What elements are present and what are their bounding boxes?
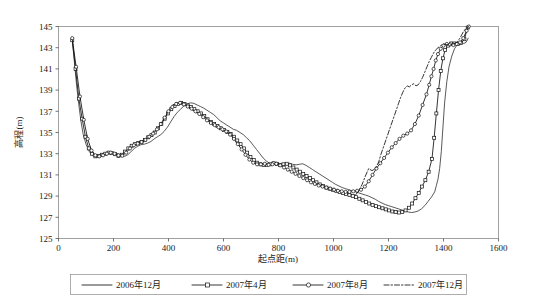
legend-label: 2007年12月 — [418, 279, 463, 290]
series-marker — [458, 41, 461, 44]
x-tick-label: 1000 — [325, 243, 344, 253]
series-marker — [229, 133, 232, 136]
series-marker — [398, 137, 401, 140]
series-marker — [313, 182, 316, 185]
series-marker — [282, 163, 285, 166]
x-tick-label: 0 — [56, 243, 61, 253]
series-marker — [101, 154, 104, 157]
series-marker — [295, 168, 298, 171]
series-marker — [428, 83, 431, 86]
series-marker — [117, 154, 120, 157]
series-marker — [367, 180, 370, 183]
series-marker — [361, 199, 364, 202]
series-marker — [424, 179, 427, 182]
series-marker — [384, 208, 387, 211]
series-marker — [383, 156, 386, 159]
series-marker — [306, 179, 309, 182]
series-marker — [391, 210, 394, 213]
series-marker — [305, 174, 308, 177]
series-marker — [325, 186, 328, 189]
series-marker — [290, 170, 293, 173]
series-marker — [379, 162, 382, 165]
legend-marker-circle — [306, 283, 310, 287]
series-marker — [263, 162, 266, 165]
series-marker — [298, 170, 301, 173]
y-tick-label: 125 — [39, 234, 53, 244]
series-marker — [194, 110, 197, 113]
series-marker — [152, 132, 155, 135]
series-marker — [71, 37, 74, 40]
series-marker — [411, 202, 414, 205]
series-marker — [375, 167, 378, 170]
series-marker — [317, 184, 320, 187]
y-tick-label: 133 — [39, 149, 53, 159]
y-tick-label: 131 — [39, 170, 53, 180]
series-marker — [225, 130, 228, 133]
series-marker — [407, 206, 410, 209]
series-marker — [421, 185, 424, 188]
series-marker — [329, 187, 332, 190]
series-marker — [417, 114, 420, 117]
series-marker — [437, 89, 440, 92]
series-marker — [167, 110, 170, 113]
x-tick-label: 1400 — [435, 243, 454, 253]
series-marker — [336, 189, 339, 192]
series-marker — [186, 105, 189, 108]
series-marker — [98, 155, 101, 158]
series-marker — [178, 101, 181, 104]
series-marker — [371, 173, 374, 176]
series-marker — [351, 195, 354, 198]
series-marker — [94, 154, 97, 157]
series-marker — [439, 70, 442, 73]
series-marker — [217, 126, 220, 129]
series-marker — [109, 151, 112, 154]
series-marker — [414, 197, 417, 200]
series-marker — [205, 119, 208, 122]
series-marker — [430, 75, 433, 78]
x-tick-label: 200 — [107, 243, 121, 253]
x-tick-label: 600 — [217, 243, 231, 253]
series-marker — [232, 137, 235, 140]
elevation-profile-chart: 125127129131133135137139141143145 020040… — [0, 0, 533, 308]
series-marker — [436, 52, 439, 55]
series-marker — [140, 140, 143, 143]
series-marker — [148, 135, 151, 138]
series-marker — [190, 107, 193, 110]
series-marker — [332, 188, 335, 191]
series-marker — [198, 112, 201, 115]
series-marker — [402, 134, 405, 137]
series-marker — [286, 168, 289, 171]
series-marker — [136, 142, 139, 145]
y-axis-title: 高程(m) — [13, 117, 24, 148]
series-marker — [132, 144, 135, 147]
x-tick-label: 800 — [272, 243, 286, 253]
series-marker — [213, 123, 216, 126]
series-marker — [390, 146, 393, 149]
series-marker — [294, 172, 297, 175]
series-marker — [388, 209, 391, 212]
series-marker — [171, 105, 174, 108]
series-marker — [432, 67, 435, 70]
series-marker — [175, 102, 178, 105]
y-tick-label: 143 — [39, 43, 53, 53]
series-marker — [462, 37, 465, 40]
series-marker — [125, 151, 128, 154]
legend-marker-square — [206, 283, 210, 287]
legend-label: 2007年8月 — [327, 279, 368, 290]
series-marker — [444, 48, 447, 51]
series-marker — [221, 128, 224, 131]
series-marker — [433, 136, 436, 139]
series-marker — [355, 196, 358, 199]
series-marker — [401, 211, 404, 214]
series-marker — [340, 190, 343, 193]
series-marker — [78, 95, 81, 98]
series-marker — [90, 149, 93, 152]
series-marker — [75, 65, 78, 68]
series-marker — [289, 164, 292, 167]
y-tick-label: 137 — [39, 107, 53, 117]
series-marker — [308, 177, 311, 180]
series-marker — [363, 185, 366, 188]
series-marker — [87, 147, 90, 150]
x-tick-label: 1600 — [490, 243, 509, 253]
series-marker — [404, 209, 407, 212]
